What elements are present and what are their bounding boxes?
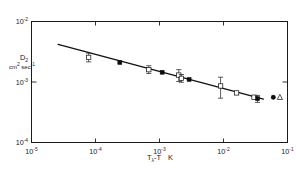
marker-open-square xyxy=(86,55,90,59)
figure-container: 10-510-410-310-210-1 10-210-310-4 Tλ-TK … xyxy=(0,0,301,171)
xlabel-rest: -T xyxy=(154,153,161,162)
yunit-a: cm xyxy=(9,64,17,70)
x-tick-label: 10-1 xyxy=(281,147,294,156)
yunit-b: sec xyxy=(20,64,31,70)
y-tick-labels: 10-210-310-4 xyxy=(16,17,29,147)
series-filled-square xyxy=(118,61,260,103)
y-axis-ticks xyxy=(32,22,288,143)
y-tick-label: 10-3 xyxy=(16,78,29,87)
y-tick-label: 10-2 xyxy=(16,17,29,26)
marker-filled-square xyxy=(187,77,191,81)
plot-frame xyxy=(32,22,288,143)
yunit-b-sup: -1 xyxy=(31,62,36,67)
series-open-triangle xyxy=(277,94,282,99)
svg-text:D2: D2 xyxy=(20,53,28,63)
x-tick-label: 10-5 xyxy=(25,147,38,156)
svg-text:Tλ-TK: Tλ-TK xyxy=(147,153,173,163)
x-tick-label: 10-2 xyxy=(217,147,230,156)
x-axis-label: Tλ-TK xyxy=(147,153,173,163)
marker-filled-circle xyxy=(271,95,275,99)
marker-open-square xyxy=(218,84,222,88)
series-filled-circle xyxy=(271,95,275,99)
marker-filled-square xyxy=(256,97,260,101)
x-tick-label: 10-4 xyxy=(89,147,102,156)
xlabel-unit: K xyxy=(168,153,173,162)
ylabel-sub: 2 xyxy=(25,57,28,63)
marker-open-square xyxy=(147,67,151,71)
marker-open-triangle xyxy=(277,94,282,99)
marker-filled-square xyxy=(118,61,122,65)
series-open-square xyxy=(86,53,256,99)
log-log-scatter-plot: 10-510-410-310-210-1 10-210-310-4 Tλ-TK … xyxy=(0,0,301,171)
marker-open-square xyxy=(179,76,183,80)
marker-open-square xyxy=(234,91,238,95)
marker-filled-square xyxy=(160,70,164,74)
x-axis-ticks xyxy=(32,22,288,143)
